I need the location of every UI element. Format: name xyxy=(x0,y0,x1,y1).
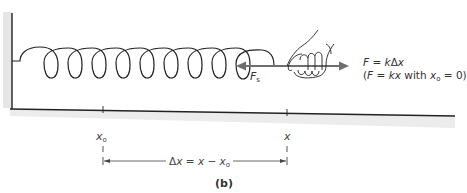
arrowhead-right-icon xyxy=(339,62,349,71)
arrowhead-left-icon xyxy=(236,62,246,71)
dim-arrowhead-left-icon xyxy=(104,159,110,163)
dx-equals: = xyxy=(182,155,197,167)
equation-line-1: F = kΔx xyxy=(363,56,467,69)
eq-x: x xyxy=(398,56,404,68)
dx-x0-sub: o xyxy=(226,161,230,169)
eq-delta: Δ xyxy=(391,56,398,68)
dim-arrowhead-right-icon xyxy=(280,159,286,163)
eq2-with: with xyxy=(401,69,430,81)
x0-label: xo xyxy=(96,130,107,144)
wall-shadow xyxy=(3,12,12,108)
dx-minus: − xyxy=(204,155,219,167)
eq2-equals: = xyxy=(373,69,388,81)
eq2-rest: = 0) xyxy=(440,69,466,81)
x-label: x xyxy=(284,130,291,143)
hand-icon xyxy=(287,30,334,78)
hooke-equation: F = kΔx (F = kx with xo = 0) xyxy=(363,56,467,86)
figure-caption: (b) xyxy=(215,177,233,190)
x-symbol: x xyxy=(284,130,291,143)
spring xyxy=(12,47,274,79)
force-subscript: s xyxy=(256,76,260,84)
spring-force-label: Fs xyxy=(250,70,260,84)
displacement-label: Δx = x − xo xyxy=(166,155,233,169)
eq-equals: = xyxy=(369,56,384,68)
equation-line-2: (F = kx with xo = 0) xyxy=(363,69,467,86)
x0-subscript: o xyxy=(103,136,107,144)
